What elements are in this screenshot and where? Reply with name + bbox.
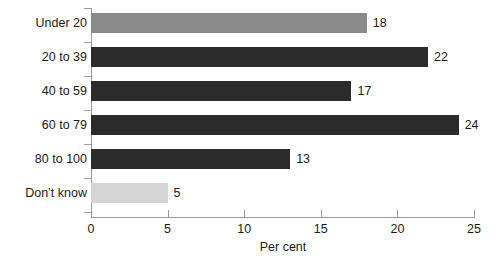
y-axis-tick — [84, 178, 91, 179]
value-label: 24 — [465, 115, 479, 135]
bar — [91, 81, 351, 101]
x-tick-label: 25 — [467, 222, 481, 236]
value-label: 5 — [174, 183, 181, 203]
y-axis-tick — [84, 8, 91, 9]
y-axis-tick — [84, 76, 91, 77]
bar-chart: Under 2020 to 3940 to 5960 to 7980 to 10… — [0, 0, 496, 258]
x-tick-label: 5 — [164, 222, 171, 236]
value-label: 17 — [357, 81, 371, 101]
x-axis-title: Per cent — [0, 240, 496, 254]
x-tick-label: 15 — [314, 222, 328, 236]
x-axis-tick — [321, 210, 322, 217]
value-label: 13 — [296, 149, 310, 169]
bar — [91, 115, 459, 135]
x-axis-line — [91, 217, 475, 218]
category-label: 20 to 39 — [5, 47, 87, 67]
x-axis-tick — [244, 210, 245, 217]
x-axis-tick — [91, 210, 92, 217]
category-label: 40 to 59 — [5, 81, 87, 101]
y-axis-tick — [84, 144, 91, 145]
y-axis-tick — [84, 42, 91, 43]
category-label: 80 to 100 — [5, 149, 87, 169]
value-label: 22 — [434, 47, 448, 67]
x-axis-title-text: Per cent — [260, 240, 307, 254]
x-axis-tick — [397, 210, 398, 217]
bar — [91, 47, 428, 67]
y-axis-tick — [84, 212, 91, 213]
x-axis-tick — [168, 210, 169, 217]
x-tick-label: 20 — [390, 222, 404, 236]
value-label: 18 — [373, 13, 387, 33]
bar — [91, 183, 168, 203]
category-label: Under 20 — [5, 13, 87, 33]
bar — [91, 149, 290, 169]
category-label: Don’t know — [5, 183, 87, 203]
x-tick-label: 0 — [88, 222, 95, 236]
category-label: 60 to 79 — [5, 115, 87, 135]
y-axis-tick — [84, 110, 91, 111]
x-tick-label: 10 — [237, 222, 251, 236]
x-axis-tick — [474, 210, 475, 217]
bar — [91, 13, 367, 33]
